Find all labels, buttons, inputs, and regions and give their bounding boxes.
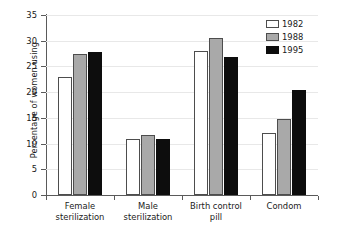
y-tick-label: 15: [7, 113, 37, 123]
x-axis-category-label: Condom: [250, 201, 318, 212]
legend-label-1995: 1995: [282, 45, 303, 55]
x-axis-category-label: Birth controlpill: [182, 201, 250, 222]
x-axis-category-label: Malesterilization: [114, 201, 182, 222]
bar-1995-2: [156, 139, 171, 195]
legend-item-1995[interactable]: 1995: [266, 43, 303, 56]
x-label-line: Male: [114, 201, 182, 212]
bar-1988-1: [73, 54, 88, 195]
bar-1995-3: [224, 57, 239, 195]
gridline: [46, 15, 318, 16]
y-tick-label: 35: [7, 10, 37, 20]
legend-label-1988: 1988: [282, 32, 303, 42]
x-tick-mark: [318, 196, 319, 200]
x-label-line: Condom: [250, 201, 318, 212]
x-label-line: sterilization: [46, 212, 114, 223]
legend-swatch-1988: [266, 33, 279, 41]
y-tick-label: 30: [7, 36, 37, 46]
bar-chart: Percentage of women using 05101520253035…: [0, 0, 337, 229]
x-axis-category-label: Femalesterilization: [46, 201, 114, 222]
bar-1995-4: [292, 90, 307, 195]
legend-item-1988[interactable]: 1988: [266, 30, 303, 43]
x-label-line: pill: [182, 212, 250, 223]
y-tick-label: 0: [7, 190, 37, 200]
bar-1982-2: [126, 139, 141, 195]
bar-1988-3: [209, 38, 224, 195]
x-tick-mark: [46, 196, 47, 200]
legend: 198219881995: [266, 17, 303, 56]
bar-1982-1: [58, 77, 73, 195]
bar-1995-1: [88, 52, 103, 195]
x-tick-mark: [182, 196, 183, 200]
x-label-line: Female: [46, 201, 114, 212]
y-tick-label: 25: [7, 61, 37, 71]
bar-1982-4: [262, 133, 277, 195]
bar-1988-4: [277, 119, 292, 195]
legend-swatch-1995: [266, 46, 279, 54]
legend-item-1982[interactable]: 1982: [266, 17, 303, 30]
bar-1988-2: [141, 135, 156, 195]
y-tick-label: 5: [7, 164, 37, 174]
x-label-line: Birth control: [182, 201, 250, 212]
y-tick-label: 10: [7, 139, 37, 149]
x-label-line: sterilization: [114, 212, 182, 223]
x-tick-mark: [250, 196, 251, 200]
bar-1982-3: [194, 51, 209, 195]
x-tick-mark: [114, 196, 115, 200]
legend-swatch-1982: [266, 20, 279, 28]
y-tick-label: 20: [7, 87, 37, 97]
legend-label-1982: 1982: [282, 19, 303, 29]
